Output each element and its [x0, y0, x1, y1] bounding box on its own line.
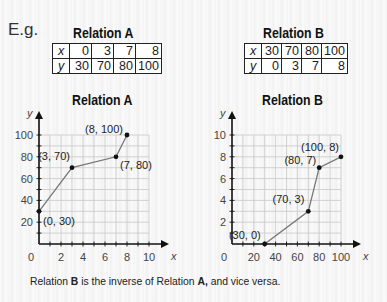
point-label: (0, 30) — [43, 215, 75, 227]
svg-text:8: 8 — [124, 251, 130, 263]
point-label: (30, 0) — [229, 229, 261, 241]
point-label: (100, 8) — [301, 141, 339, 153]
svg-text:20: 20 — [21, 216, 33, 228]
svg-text:100: 100 — [332, 251, 350, 263]
relation-a-graph: xy024681020406080100(0, 30)(3, 70)(7, 80… — [15, 107, 177, 263]
svg-text:60: 60 — [291, 251, 303, 263]
svg-text:4: 4 — [220, 194, 226, 206]
point-label: (8, 100) — [85, 123, 123, 135]
svg-text:100: 100 — [15, 129, 33, 141]
point-label: (70, 3) — [273, 193, 305, 205]
relation-b-graph: xy020406080100246810(30, 0)(70, 3)(80, 7… — [214, 107, 369, 263]
svg-text:10: 10 — [143, 251, 155, 263]
data-point — [262, 242, 267, 247]
svg-text:0: 0 — [221, 251, 227, 263]
x-axis-label: x — [362, 250, 369, 262]
data-point — [114, 154, 119, 159]
data-point — [317, 165, 322, 170]
footnote: Relation B is the inverse of Relation A,… — [30, 275, 280, 287]
y-axis-label: y — [26, 107, 34, 119]
svg-text:2: 2 — [220, 216, 226, 228]
svg-text:20: 20 — [248, 251, 260, 263]
svg-text:40: 40 — [269, 251, 281, 263]
data-point — [339, 154, 344, 159]
svg-text:0: 0 — [28, 251, 34, 263]
data-point — [306, 209, 311, 214]
data-point — [125, 133, 130, 138]
svg-text:80: 80 — [21, 151, 33, 163]
data-point — [37, 209, 42, 214]
point-label: (3, 70) — [38, 150, 70, 162]
svg-text:2: 2 — [58, 251, 64, 263]
svg-text:10: 10 — [214, 129, 226, 141]
svg-text:80: 80 — [313, 251, 325, 263]
point-label: (7, 80) — [120, 159, 152, 171]
point-label: (80, 7) — [284, 154, 316, 166]
y-axis-label: y — [219, 107, 227, 119]
svg-text:6: 6 — [102, 251, 108, 263]
data-point — [70, 165, 75, 170]
svg-text:6: 6 — [220, 173, 226, 185]
svg-text:8: 8 — [220, 151, 226, 163]
x-axis-label: x — [170, 250, 177, 262]
svg-text:4: 4 — [80, 251, 86, 263]
svg-text:60: 60 — [21, 173, 33, 185]
charts-canvas: xy024681020406080100(0, 30)(3, 70)(7, 80… — [0, 0, 387, 302]
svg-text:40: 40 — [21, 194, 33, 206]
